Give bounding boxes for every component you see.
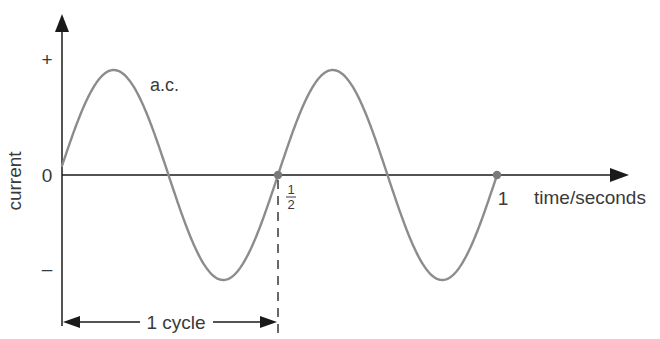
x-axis — [62, 168, 629, 182]
x-tick-half: 1 2 — [286, 182, 296, 212]
half-second-marker — [274, 171, 282, 179]
y-tick-plus: + — [41, 49, 52, 70]
y-axis — [55, 14, 69, 326]
y-axis-label: current — [4, 151, 25, 211]
x-tick-half-numerator: 1 — [287, 182, 294, 197]
y-tick-zero: 0 — [42, 165, 53, 186]
curve-label: a.c. — [150, 75, 179, 95]
left-arrow-icon — [63, 316, 80, 328]
y-tick-minus: – — [42, 258, 53, 279]
cycle-label: 1 cycle — [146, 312, 205, 333]
x-tick-one: 1 — [498, 188, 509, 209]
x-axis-arrow-icon — [610, 168, 629, 182]
x-tick-half-denominator: 2 — [287, 197, 294, 212]
ac-waveform-diagram: 1 cycle + 0 – current 1 2 1 time/seconds… — [0, 0, 660, 339]
right-arrow-icon — [260, 316, 277, 328]
x-axis-label: time/seconds — [534, 187, 646, 208]
one-second-marker — [493, 171, 501, 179]
cycle-span-indicator: 1 cycle — [63, 312, 277, 333]
y-axis-arrow-icon — [55, 14, 69, 32]
